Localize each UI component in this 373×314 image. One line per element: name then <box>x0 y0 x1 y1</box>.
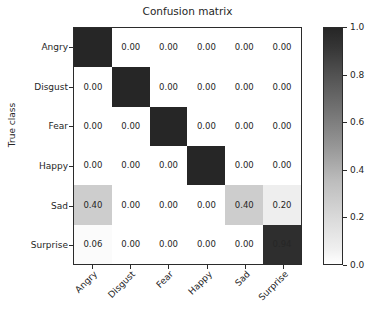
y-tick-label-surprise: Surprise <box>31 240 68 250</box>
matrix-cell: 0.00 <box>74 146 112 185</box>
y-tick-label-sad: Sad <box>51 201 68 211</box>
y-tick-label-angry: Angry <box>41 42 68 52</box>
confusion-matrix-grid: 1.000.000.000.000.000.000.001.000.000.00… <box>74 28 301 264</box>
y-tick-label-disgust: Disgust <box>34 82 68 92</box>
colorbar-tick-mark <box>343 122 347 123</box>
matrix-cell-value: 0.40 <box>235 201 254 210</box>
matrix-cell: 0.00 <box>150 28 188 67</box>
matrix-cell: 0.00 <box>150 185 188 224</box>
matrix-cell: 0.00 <box>225 67 263 106</box>
matrix-cell: 0.00 <box>187 185 225 224</box>
x-tick-label-angry: Angry <box>21 269 99 314</box>
matrix-cell-value: 0.00 <box>83 161 102 170</box>
matrix-cell-value: 0.00 <box>197 201 216 210</box>
matrix-cell: 0.00 <box>225 107 263 146</box>
colorbar-tick-label: 0.6 <box>350 117 364 127</box>
matrix-cell: 1.00 <box>187 146 225 185</box>
colorbar-tick-mark <box>343 75 347 76</box>
matrix-cell-value: 0.00 <box>235 83 254 92</box>
matrix-cell: 0.00 <box>187 67 225 106</box>
x-tick-mark <box>130 265 131 269</box>
matrix-cell-value: 0.00 <box>235 43 254 52</box>
colorbar-tick-mark <box>343 27 347 28</box>
matrix-cell-value: 1.00 <box>121 83 140 92</box>
y-tick-label-happy: Happy <box>39 161 68 171</box>
matrix-cell: 0.00 <box>187 107 225 146</box>
matrix-cell: 0.00 <box>263 67 301 106</box>
matrix-cell-value: 0.00 <box>159 201 178 210</box>
matrix-cell: 0.00 <box>263 107 301 146</box>
matrix-cell-value: 0.20 <box>273 201 292 210</box>
matrix-cell-value: 0.00 <box>235 240 254 249</box>
matrix-cell: 0.00 <box>150 225 188 264</box>
matrix-cell: 0.00 <box>112 185 150 224</box>
chart-title: Confusion matrix <box>73 5 302 17</box>
colorbar-tick-label: 1.0 <box>350 22 364 32</box>
y-axis-title: True class <box>7 85 17 165</box>
matrix-cell-value: 0.00 <box>197 240 216 249</box>
matrix-cell-value: 0.06 <box>83 240 102 249</box>
matrix-cell-value: 0.00 <box>121 201 140 210</box>
matrix-cell-value: 0.00 <box>83 83 102 92</box>
colorbar-tick-mark <box>343 265 347 266</box>
matrix-cell-value: 0.00 <box>273 161 292 170</box>
matrix-cell: 0.00 <box>150 67 188 106</box>
figure-canvas: Confusion matrix True class 1.000.000.00… <box>0 0 373 314</box>
matrix-cell: 0.00 <box>150 146 188 185</box>
matrix-cell-value: 0.00 <box>235 122 254 131</box>
matrix-cell: 0.00 <box>263 146 301 185</box>
matrix-cell-value: 0.00 <box>121 161 140 170</box>
matrix-cell-value: 0.00 <box>197 122 216 131</box>
matrix-cell-value: 0.00 <box>159 240 178 249</box>
y-tick-label-fear: Fear <box>49 121 68 131</box>
matrix-cell-value: 0.00 <box>273 122 292 131</box>
colorbar-tick-label: 0.2 <box>350 212 364 222</box>
colorbar-tick-label: 0.0 <box>350 260 364 270</box>
matrix-cell: 0.00 <box>74 107 112 146</box>
colorbar-tick-label: 0.4 <box>350 165 364 175</box>
x-tick-mark <box>168 265 169 269</box>
colorbar-tick-mark <box>343 170 347 171</box>
matrix-cell: 0.40 <box>74 185 112 224</box>
matrix-cell-value: 0.00 <box>121 43 140 52</box>
matrix-cell: 0.00 <box>112 146 150 185</box>
matrix-cell: 0.00 <box>187 28 225 67</box>
matrix-cell-value: 0.00 <box>273 43 292 52</box>
matrix-cell: 1.00 <box>150 107 188 146</box>
matrix-cell-value: 0.00 <box>197 43 216 52</box>
matrix-cell: 0.00 <box>112 225 150 264</box>
matrix-cell: 1.00 <box>74 28 112 67</box>
x-tick-mark <box>207 265 208 269</box>
matrix-cell-value: 0.00 <box>83 122 102 131</box>
matrix-cell: 0.06 <box>74 225 112 264</box>
x-tick-mark <box>283 265 284 269</box>
matrix-cell: 0.00 <box>225 146 263 185</box>
matrix-cell-value: 0.00 <box>159 43 178 52</box>
matrix-cell-value: 0.00 <box>197 83 216 92</box>
matrix-cell: 0.40 <box>225 185 263 224</box>
matrix-cell-value: 0.94 <box>273 240 292 249</box>
colorbar-tick-label: 0.8 <box>350 70 364 80</box>
colorbar-tick-mark <box>343 217 347 218</box>
matrix-cell: 0.00 <box>263 28 301 67</box>
matrix-cell-value: 1.00 <box>159 122 178 131</box>
heatmap-plot-area: 1.000.000.000.000.000.000.001.000.000.00… <box>73 27 302 265</box>
x-tick-mark <box>92 265 93 269</box>
matrix-cell-value: 0.40 <box>83 201 102 210</box>
matrix-cell: 1.00 <box>112 67 150 106</box>
matrix-cell-value: 0.00 <box>273 83 292 92</box>
matrix-cell-value: 0.00 <box>121 240 140 249</box>
matrix-cell: 0.00 <box>225 225 263 264</box>
x-tick-mark <box>245 265 246 269</box>
matrix-cell: 0.00 <box>225 28 263 67</box>
matrix-cell-value: 0.00 <box>159 83 178 92</box>
colorbar-gradient <box>323 27 343 265</box>
matrix-cell: 0.94 <box>263 225 301 264</box>
matrix-cell: 0.00 <box>187 225 225 264</box>
matrix-cell: 0.00 <box>74 67 112 106</box>
matrix-cell: 0.20 <box>263 185 301 224</box>
matrix-cell-value: 0.00 <box>159 161 178 170</box>
matrix-cell: 0.00 <box>112 28 150 67</box>
matrix-cell-value: 1.00 <box>83 43 102 52</box>
matrix-cell-value: 1.00 <box>197 161 216 170</box>
